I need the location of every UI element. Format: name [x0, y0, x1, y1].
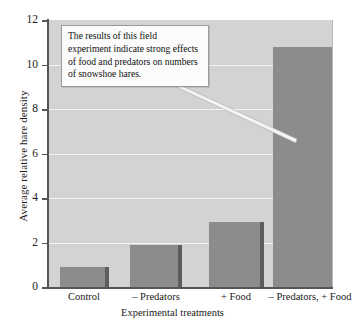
callout-annotation: The results of this field experiment ind…	[61, 25, 209, 87]
y-axis-title: Average relative hare density	[17, 41, 29, 271]
x-axis-title: Experimental treatments	[0, 307, 345, 318]
x-axis-tick-label: – Predators, + Food	[250, 291, 356, 302]
y-axis-tick-label: 12	[12, 14, 38, 26]
